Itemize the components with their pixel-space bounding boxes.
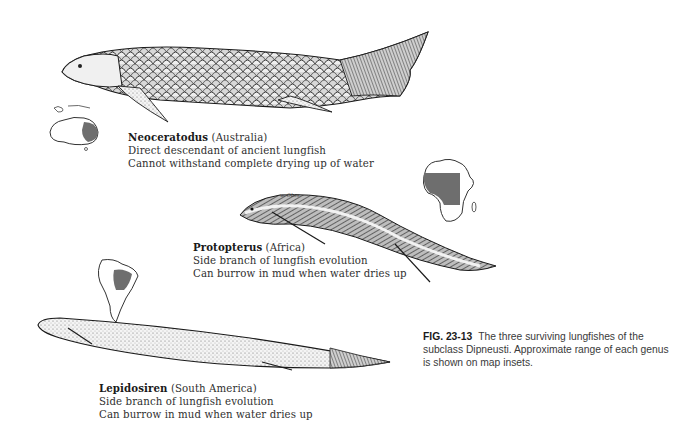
africa-map-icon xyxy=(416,155,480,227)
figure-number: FIG. 23-13 xyxy=(423,331,472,342)
region: (Africa) xyxy=(266,242,306,253)
genus-name: Protopterus xyxy=(193,241,262,253)
artist-signature: w. Obes xyxy=(280,192,300,198)
description-line: Can burrow in mud when water dries up xyxy=(193,267,407,280)
genus-name: Neoceratodus xyxy=(128,131,208,143)
description-line: Cannot withstand complete drying up of w… xyxy=(128,157,374,170)
description-line: Side branch of lungfish evolution xyxy=(193,254,407,267)
australia-map-icon xyxy=(44,102,104,150)
lepidosiren-label: Lepidosiren (South America) Side branch … xyxy=(99,382,313,421)
neoceratodus-illustration: w. Obes xyxy=(0,0,677,437)
region: (South America) xyxy=(171,383,257,394)
protopterus-label: Protopterus (Africa) Side branch of lung… xyxy=(193,241,407,280)
neoceratodus-label: Neoceratodus (Australia) Direct descenda… xyxy=(128,131,374,170)
description-line: Side branch of lungfish evolution xyxy=(99,395,313,408)
description-line: Direct descendant of ancient lungfish xyxy=(128,144,374,157)
region: (Australia) xyxy=(212,132,268,143)
south-america-map-icon xyxy=(92,254,142,326)
description-line: Can burrow in mud when water dries up xyxy=(99,408,313,421)
figure-caption: FIG. 23-13The three surviving lungfishes… xyxy=(423,330,673,370)
genus-name: Lepidosiren xyxy=(99,382,168,394)
